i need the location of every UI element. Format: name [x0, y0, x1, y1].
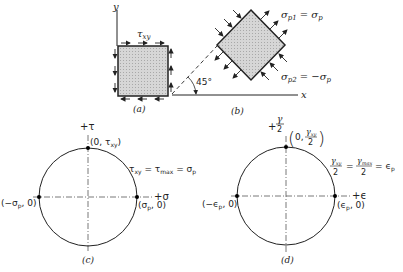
sigma-p1-label: σp1= σp [281, 9, 323, 22]
angle-arc [188, 77, 196, 94]
svg-text:=: = [346, 161, 354, 171]
gamma-half-axis-label: + γ 2 [268, 114, 284, 134]
angle-label: 45° [196, 77, 212, 87]
caption-c: (c) [82, 255, 95, 265]
y-axis-label: y [112, 1, 119, 12]
svg-text:γxy: γxy [306, 127, 317, 138]
strain-relation: γxy 2 = γmax 2 = ϵp [330, 156, 395, 177]
svg-text:2: 2 [361, 168, 366, 177]
top-point-label: (0, τxy) [90, 137, 121, 149]
tau-axis-label: +τ [80, 121, 94, 132]
svg-text:2: 2 [308, 138, 313, 147]
svg-text:0,: 0, [295, 132, 304, 142]
svg-text:γxy: γxy [331, 156, 342, 167]
rotated-element-diamond [217, 10, 285, 80]
right-point-label: (σp, 0) [138, 200, 166, 212]
left-point-label: (−ϵp, 0) [202, 199, 237, 211]
sigma-p2-label: σp2= −σp [281, 71, 332, 84]
point-left [37, 195, 41, 199]
svg-text:+: + [268, 121, 276, 132]
stress-strain-diagram: y τxy (a) x [0, 0, 403, 272]
top-point-label: ( 0, γxy 2 ) [288, 127, 325, 149]
svg-text:γmax: γmax [357, 156, 373, 166]
stress-relation: τxy = τmax = σp [129, 164, 196, 176]
caption-a: (a) [133, 104, 146, 114]
point-left [235, 194, 239, 198]
point-right [135, 195, 139, 199]
tau-xy-label: τxy [137, 28, 151, 41]
right-point-label: (ϵp, 0) [337, 200, 365, 212]
caption-d: (d) [281, 255, 294, 265]
panel-a: y τxy (a) [112, 1, 171, 114]
stress-element-square [118, 46, 168, 96]
svg-text:γ: γ [277, 114, 283, 124]
svg-text:2: 2 [277, 125, 282, 134]
caption-b: (b) [231, 106, 244, 116]
panel-d: + γ 2 +ϵ ( 0, γxy 2 ) (−ϵp, 0) (ϵp, 0) γ… [202, 114, 395, 265]
svg-text:(: ( [288, 128, 295, 149]
point-right [333, 194, 337, 198]
svg-text:= ϵp: = ϵp [375, 161, 395, 173]
left-point-label: (−σp, 0) [1, 198, 37, 210]
svg-text:): ) [318, 128, 325, 149]
panel-b: x 45° σp1= σp σp2= −σp [172, 9, 332, 116]
panel-c: +τ +σ (0, τxy) (−σp, 0) (σp, 0) τxy = τm… [1, 121, 196, 265]
svg-text:2: 2 [333, 168, 338, 177]
x-axis-label: x [301, 89, 307, 100]
